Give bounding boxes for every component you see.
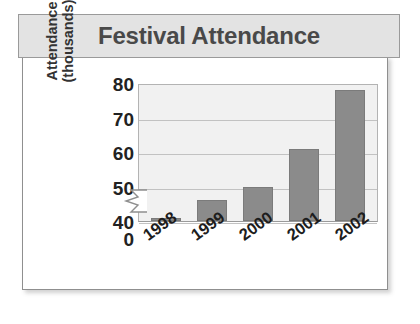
bar-series — [139, 85, 377, 221]
chart-title-banner: Festival Attendance — [18, 14, 400, 58]
y-axis-tick-label: 80 — [113, 75, 134, 94]
bar — [335, 90, 365, 221]
y-axis-tick-label: 0 — [123, 230, 134, 249]
y-axis-tick-label: 70 — [113, 110, 134, 129]
x-axis-tick-labels: 19981999200020012002 — [138, 224, 378, 284]
y-axis-tick-label: 60 — [113, 144, 134, 163]
plot-area — [138, 84, 378, 222]
axis-break-icon — [122, 188, 148, 214]
page-title: Festival Attendance — [98, 24, 320, 48]
